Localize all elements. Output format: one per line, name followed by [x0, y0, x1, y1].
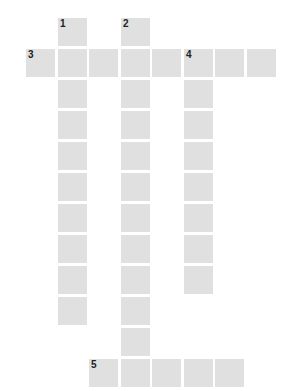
crossword-cell[interactable]: [152, 49, 181, 77]
crossword-cell[interactable]: [58, 80, 87, 108]
crossword-cell[interactable]: [121, 142, 150, 170]
clue-number: 5: [91, 360, 97, 370]
crossword-cell[interactable]: [58, 173, 87, 201]
crossword-cell[interactable]: 4: [184, 49, 213, 77]
crossword-cell[interactable]: [121, 80, 150, 108]
crossword-cell[interactable]: [121, 328, 150, 356]
crossword-cell[interactable]: [58, 297, 87, 325]
crossword-cell[interactable]: [58, 235, 87, 263]
clue-number: 4: [186, 50, 192, 60]
crossword-cell[interactable]: 5: [89, 359, 118, 387]
crossword-cell[interactable]: [184, 111, 213, 139]
crossword-grid: 12345: [0, 0, 288, 391]
crossword-cell[interactable]: [184, 266, 213, 294]
crossword-cell[interactable]: [121, 359, 150, 387]
crossword-cell[interactable]: [58, 266, 87, 294]
crossword-cell[interactable]: 3: [26, 49, 55, 77]
crossword-cell[interactable]: [58, 142, 87, 170]
crossword-cell[interactable]: 1: [58, 18, 87, 46]
crossword-cell[interactable]: [58, 49, 87, 77]
crossword-cell[interactable]: [121, 204, 150, 232]
crossword-cell[interactable]: [184, 173, 213, 201]
crossword-cell[interactable]: [247, 49, 276, 77]
crossword-cell[interactable]: 2: [121, 18, 150, 46]
crossword-cell[interactable]: [184, 142, 213, 170]
crossword-cell[interactable]: [184, 204, 213, 232]
clue-number: 1: [60, 19, 66, 29]
crossword-cell[interactable]: [215, 359, 244, 387]
crossword-cell[interactable]: [121, 173, 150, 201]
crossword-cell[interactable]: [121, 266, 150, 294]
crossword-cell[interactable]: [121, 111, 150, 139]
crossword-cell[interactable]: [58, 111, 87, 139]
crossword-cell[interactable]: [121, 297, 150, 325]
crossword-cell[interactable]: [121, 49, 150, 77]
crossword-cell[interactable]: [184, 235, 213, 263]
clue-number: 3: [28, 50, 34, 60]
crossword-cell[interactable]: [121, 235, 150, 263]
crossword-cell[interactable]: [152, 359, 181, 387]
crossword-cell[interactable]: [215, 49, 244, 77]
crossword-cell[interactable]: [184, 359, 213, 387]
clue-number: 2: [123, 19, 129, 29]
crossword-cell[interactable]: [184, 80, 213, 108]
crossword-cell[interactable]: [58, 204, 87, 232]
crossword-cell[interactable]: [89, 49, 118, 77]
